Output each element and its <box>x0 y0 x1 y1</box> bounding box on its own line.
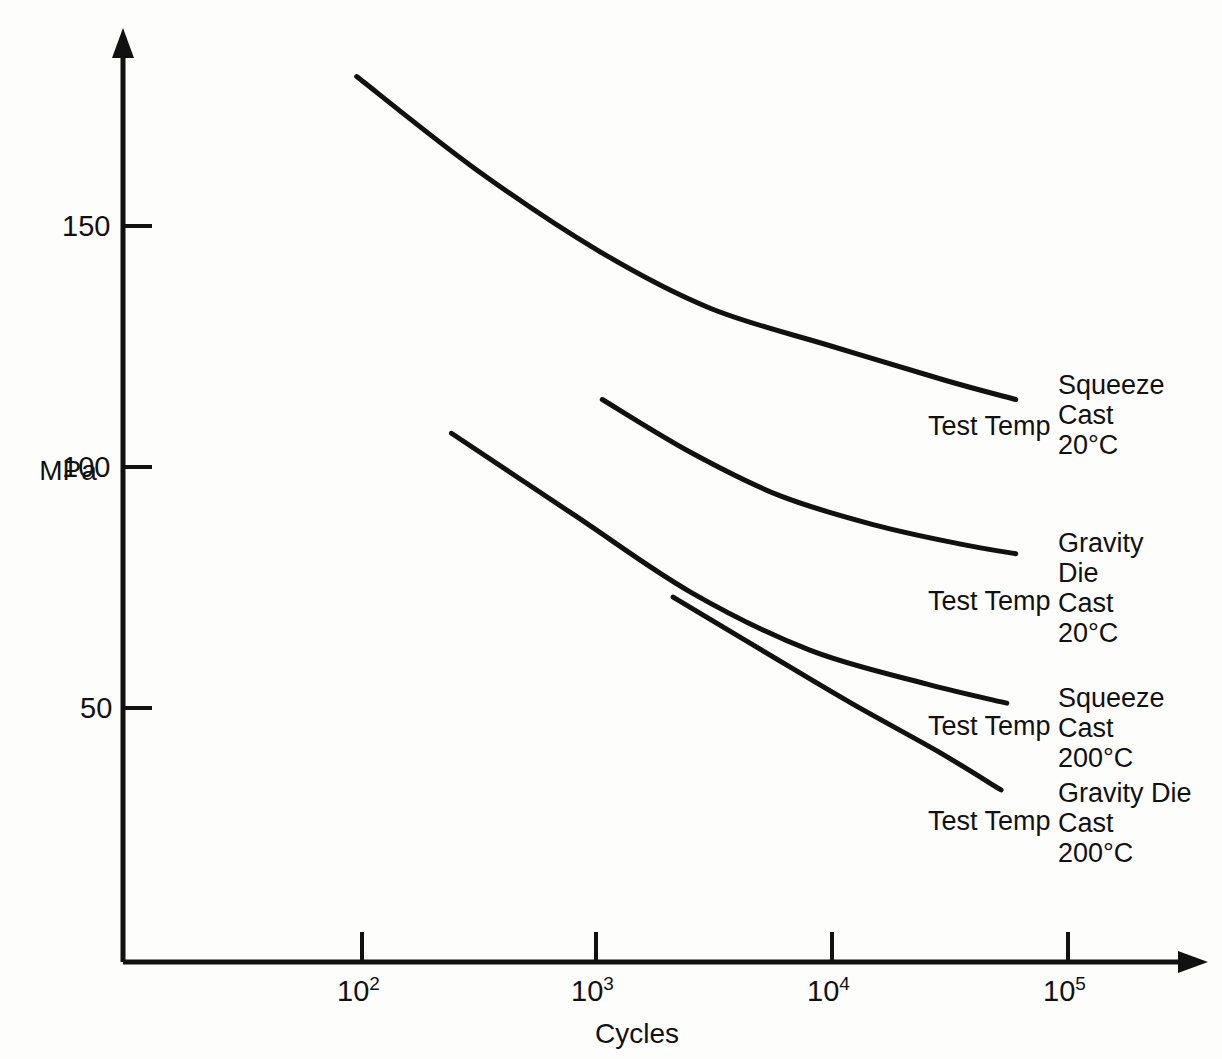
x-axis-arrow-icon <box>1178 951 1208 973</box>
x-tick-exp-1e4: 4 <box>839 973 850 994</box>
series2-test-temp-label: Test Temp <box>928 586 1051 617</box>
series2-label-line3: Cast <box>1058 586 1114 620</box>
x-tick-label-1e4: 104 <box>807 975 850 1008</box>
x-axis-title: Cycles <box>595 1018 679 1050</box>
series1-label-line2: Cast <box>1058 398 1114 432</box>
series-curve-4 <box>673 597 1001 790</box>
series3-label-line2: Cast <box>1058 711 1114 745</box>
series2-label-line1: Gravity <box>1058 526 1144 560</box>
series4-label-line2: Cast <box>1058 806 1114 840</box>
x-tick-label-1e2: 102 <box>337 975 380 1008</box>
series3-label-line3: 200°C <box>1058 741 1133 775</box>
series1-label-line3: 20°C <box>1058 428 1118 462</box>
series1-test-temp-label: Test Temp <box>928 411 1051 442</box>
series4-label-line3: 200°C <box>1058 836 1133 870</box>
fatigue-curve-plot <box>0 0 1222 1059</box>
series-curve-1 <box>357 77 1016 400</box>
x-tick-base-1e3: 10 <box>571 975 603 1007</box>
series4-test-temp-label: Test Temp <box>928 806 1051 837</box>
y-axis-arrow-icon <box>112 28 134 58</box>
y-axis-title: MPa <box>39 455 97 487</box>
x-tick-label-1e3: 103 <box>571 975 614 1008</box>
x-tick-base-1e2: 10 <box>337 975 369 1007</box>
x-tick-exp-1e3: 3 <box>603 973 614 994</box>
y-axis-title-wrap: MPa <box>8 455 128 487</box>
series3-label-line1: Squeeze <box>1058 681 1165 715</box>
series2-label-line4: 20°C <box>1058 616 1118 650</box>
x-tick-base-1e4: 10 <box>807 975 839 1007</box>
series3-test-temp-label: Test Temp <box>928 711 1051 742</box>
x-tick-exp-1e5: 5 <box>1075 973 1086 994</box>
curve-group <box>357 77 1016 790</box>
series2-label-line2: Die <box>1058 556 1099 590</box>
x-tick-base-1e5: 10 <box>1043 975 1075 1007</box>
y-tick-label-150: 150 <box>62 210 110 243</box>
chart-page: 150 100 50 MPa 102 103 104 105 Cycles Te… <box>0 0 1222 1059</box>
series1-label-line1: Squeeze <box>1058 368 1165 402</box>
series4-label-line1: Gravity Die <box>1058 776 1192 810</box>
x-tick-label-1e5: 105 <box>1043 975 1086 1008</box>
x-tick-exp-1e2: 2 <box>369 973 380 994</box>
y-tick-label-50: 50 <box>80 692 112 725</box>
